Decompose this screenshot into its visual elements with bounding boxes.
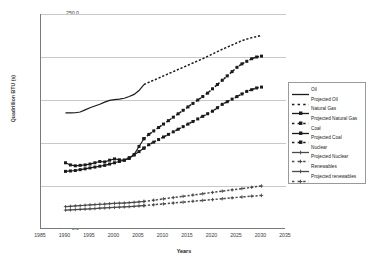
- y-axis-title: Quadrillion BTU (s): [11, 63, 16, 135]
- legend-key-icon: [291, 172, 310, 181]
- series-marker: [93, 166, 96, 169]
- legend-item[interactable]: Projected Coal: [291, 133, 363, 143]
- series-marker: [69, 208, 72, 211]
- series-marker: [93, 207, 96, 210]
- series-marker: [245, 60, 248, 63]
- legend-item[interactable]: Projected renewables: [291, 171, 363, 181]
- series-marker: [162, 202, 165, 205]
- series-marker: [152, 141, 155, 144]
- legend-item[interactable]: Projected Oil: [291, 95, 363, 105]
- series-marker: [191, 102, 194, 105]
- series-marker: [162, 123, 165, 126]
- series-marker: [79, 168, 82, 171]
- series-marker: [142, 204, 145, 207]
- series-marker: [123, 159, 126, 162]
- series-marker: [79, 164, 82, 167]
- series-line: [66, 85, 144, 113]
- legend-label: Projected Oil: [310, 97, 338, 102]
- series-marker: [108, 159, 111, 162]
- series-marker: [250, 194, 253, 197]
- legend-key-icon: [291, 95, 310, 104]
- series-marker: [132, 201, 135, 204]
- legend-item[interactable]: Coal: [291, 123, 363, 133]
- series-marker: [128, 205, 131, 208]
- series-marker: [226, 100, 229, 103]
- series-marker: [137, 204, 140, 207]
- legend-key-icon: [291, 143, 310, 152]
- legend-item[interactable]: Oil: [291, 85, 363, 95]
- series-marker: [181, 200, 184, 203]
- series-marker: [167, 119, 170, 122]
- series-marker: [74, 164, 77, 167]
- legend-item[interactable]: Projected Natural Gas: [291, 114, 363, 124]
- series-marker: [191, 200, 194, 203]
- series-marker: [64, 170, 67, 173]
- x-axis-title: Years: [0, 249, 368, 254]
- series-marker: [240, 195, 243, 198]
- legend-label: Nuclear: [310, 145, 327, 150]
- legend-label: Renewables: [310, 164, 337, 169]
- series-marker: [142, 147, 145, 150]
- series-marker: [98, 203, 101, 206]
- x-axis-tick-label: 1985: [27, 233, 53, 238]
- legend-label: Coal: [310, 126, 321, 131]
- legend-item[interactable]: Projected Nuclear: [291, 152, 363, 162]
- series-marker: [201, 115, 204, 118]
- legend-item[interactable]: Natural Gas: [291, 104, 363, 114]
- series-marker: [74, 208, 77, 211]
- series-marker: [84, 167, 87, 170]
- series-marker: [177, 112, 180, 115]
- series-marker: [187, 123, 190, 126]
- x-axis-tick-label: 2035: [272, 233, 298, 238]
- legend-key-icon: [291, 114, 310, 123]
- series-marker: [147, 133, 150, 136]
- legend-label: Projected Coal: [310, 135, 342, 140]
- series-marker: [128, 156, 131, 159]
- legend-label: Oil: [310, 87, 317, 92]
- series-marker: [211, 110, 214, 113]
- series-marker: [255, 56, 258, 59]
- series-marker: [108, 163, 111, 166]
- series-marker: [69, 163, 72, 166]
- series-marker: [260, 86, 263, 89]
- x-axis-tick-label: 2025: [223, 233, 249, 238]
- series-marker: [172, 130, 175, 133]
- x-axis-tick-label: 2005: [125, 233, 151, 238]
- series-marker: [98, 165, 101, 168]
- series-marker: [201, 95, 204, 98]
- legend-key-icon: [291, 124, 310, 133]
- series-marker: [137, 200, 140, 203]
- legend-label: Projected Natural Gas: [310, 116, 357, 121]
- series-marker: [118, 202, 121, 205]
- x-axis-tick-label: 1995: [76, 233, 102, 238]
- series-marker: [201, 192, 204, 195]
- series-marker: [231, 98, 234, 101]
- series-marker: [64, 205, 67, 208]
- series-marker: [240, 62, 243, 65]
- series-marker: [152, 203, 155, 206]
- legend-item[interactable]: Renewables: [291, 162, 363, 172]
- series-marker: [89, 166, 92, 169]
- series-marker: [172, 201, 175, 204]
- legend-key-icon: [291, 133, 310, 142]
- series-marker: [250, 57, 253, 60]
- legend-item[interactable]: Nuclear: [291, 143, 363, 153]
- series-marker: [103, 202, 106, 205]
- series-marker: [103, 206, 106, 209]
- series-marker: [172, 116, 175, 119]
- series-marker: [93, 161, 96, 164]
- series-marker: [240, 92, 243, 95]
- series-marker: [88, 207, 91, 210]
- series-marker: [236, 95, 239, 98]
- x-axis-tick-label: 1990: [52, 233, 78, 238]
- series-marker: [191, 193, 194, 196]
- series-marker: [123, 205, 126, 208]
- x-axis-tick-label: 2015: [174, 233, 200, 238]
- series-marker: [69, 205, 72, 208]
- series-marker: [83, 204, 86, 207]
- series-marker: [250, 186, 253, 189]
- series-marker: [177, 128, 180, 131]
- series-marker: [201, 199, 204, 202]
- series-marker: [245, 90, 248, 93]
- series-marker: [133, 154, 136, 157]
